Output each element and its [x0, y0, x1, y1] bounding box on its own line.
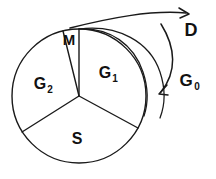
label-g1: G 1 [99, 64, 118, 84]
label-g2-sub: 2 [47, 84, 53, 95]
divider-g2-s [22, 96, 79, 132]
label-g0: G 0 [179, 71, 200, 92]
label-m: M [63, 31, 76, 48]
g0-arrow [159, 24, 173, 95]
label-g1-base: G [99, 64, 111, 81]
label-s: S [72, 130, 83, 147]
label-g0-base: G [179, 71, 192, 90]
d-arrow [70, 8, 189, 28]
figure-canvas: M G 1 G 2 S D G 0 [0, 0, 216, 179]
label-g0-sub: 0 [194, 81, 200, 92]
label-g2: G 2 [34, 75, 53, 95]
label-d: D [185, 20, 198, 40]
label-g2-base: G [34, 75, 46, 92]
divider-s-g1 [79, 96, 138, 128]
d-arrow-path [70, 12, 186, 28]
cylinder-outline-group [79, 28, 164, 118]
label-g1-sub: 1 [112, 73, 118, 84]
sector-disk-diagram: M G 1 G 2 S D G 0 [0, 0, 216, 179]
